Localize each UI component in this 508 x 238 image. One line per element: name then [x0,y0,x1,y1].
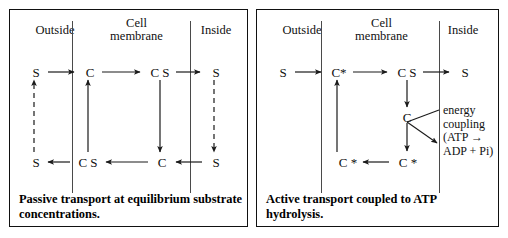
species-middle-carrier-right: C [397,111,417,124]
panel-passive-transport: Outside Cell membrane Inside S C C S S S… [9,9,248,227]
membrane-boundary-inner-left [190,21,191,193]
panel-active-transport: Outside Cell membrane Inside S C* C S S … [256,9,499,227]
species-top-outside-right: S [273,66,293,79]
region-label-inside-left: Inside [186,24,246,37]
figure-canvas: Outside Cell membrane Inside S C C S S S… [0,0,508,238]
species-bottom-outside-left: S [26,156,46,169]
region-label-membrane-right: Cell membrane [329,17,434,43]
species-top-inside-left: S [206,66,226,79]
species-top-carrier-left: C [80,66,100,79]
species-top-activated-carrier-right: C* [327,66,351,79]
species-bottom-complex-left: C S [74,156,102,169]
species-bottom-carrier-left: C [152,156,172,169]
membrane-boundary-outer-right [321,21,322,193]
region-label-outside-left: Outside [16,24,94,37]
region-label-inside-right: Inside [433,24,493,37]
species-top-complex-left: C S [146,66,174,79]
species-bottom-activated-carrier-right-right: C * [395,156,421,169]
species-bottom-inside-left: S [206,156,226,169]
caption-passive-transport: Passive transport at equilibrium substra… [19,192,244,221]
species-top-inside-right: S [455,66,475,79]
species-top-complex-right: C S [393,66,421,79]
caption-active-transport: Active transport coupled to ATP hydrolys… [266,192,494,221]
leader-line-energy-lower [407,122,437,143]
species-top-outside-left: S [26,66,46,79]
species-bottom-activated-carrier-left-right: C * [335,156,361,169]
region-label-membrane-left: Cell membrane [84,17,189,43]
annotation-energy-coupling: energy coupling (ATP → ADP + Pi) [443,104,499,158]
membrane-boundary-inner-right [439,21,440,193]
